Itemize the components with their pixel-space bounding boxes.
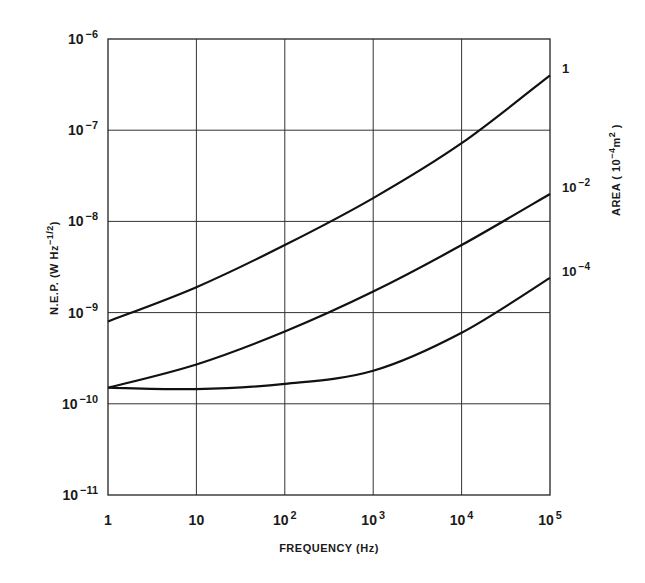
tick-label: 10−6 [68, 28, 98, 47]
tick-label: 102 [273, 509, 297, 528]
tick-label: 10−11 [63, 484, 98, 503]
curve-area-1 [108, 75, 550, 321]
curve-area-10^-4 [108, 278, 550, 389]
chart-canvas: 110102103104105 10−610−710−810−910−1010−… [0, 0, 645, 583]
y-axis-title: N.E.P. (W Hz−1/2) [45, 221, 60, 315]
grid [108, 39, 550, 495]
tick-label: 103 [361, 509, 385, 528]
x-axis-ticks: 110102103104105 [104, 509, 562, 528]
tick-label: 10−7 [68, 119, 98, 138]
tick-label: 10−4 [562, 261, 590, 279]
tick-label: 10−10 [62, 393, 98, 412]
tick-label: 10−2 [562, 177, 590, 195]
right-axis-title-text: AREA ( 10−4m2 ) [607, 124, 622, 216]
tick-label: 10−8 [68, 210, 98, 229]
tick-label: 10−9 [68, 301, 98, 320]
tick-label: 104 [450, 509, 474, 528]
curves [108, 75, 550, 389]
curve-labels: 110−210−4 [562, 61, 590, 279]
tick-label: 1 [562, 61, 569, 76]
right-axis-title: AREA ( 10−4m2 ) [607, 124, 622, 216]
x-axis-title: FREQUENCY (Hz) [279, 542, 379, 554]
y-axis-title-text: N.E.P. (W Hz−1/2) [45, 221, 60, 315]
plot-frame [108, 39, 550, 495]
tick-label: 105 [538, 509, 562, 528]
tick-label: 1 [104, 512, 112, 528]
y-axis-ticks: 10−610−710−810−910−1010−11 [62, 28, 98, 503]
tick-label: 10 [189, 512, 205, 528]
